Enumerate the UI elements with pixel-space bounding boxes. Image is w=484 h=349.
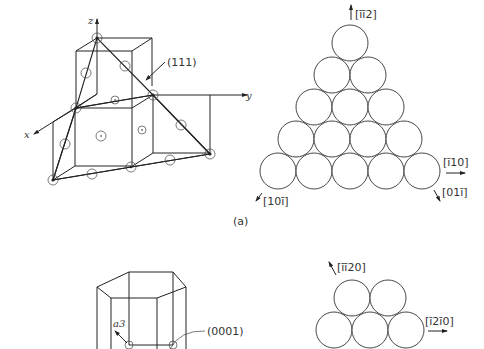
cube-top-face <box>76 38 152 51</box>
plane-0001-label: (0001) <box>207 325 244 338</box>
x-axis-label: x <box>24 129 30 140</box>
a3-axis-arrow <box>115 331 127 343</box>
direction-label-upper-left: [īī20] <box>337 261 366 274</box>
hcp-close-packed-plane: [īī20] [ī2ī0] <box>316 261 454 348</box>
direction-label-lower-left: [10ī] <box>263 195 289 208</box>
direction-label-lower-right: [01ī] <box>442 186 468 199</box>
y-axis-label: y <box>245 90 252 101</box>
fcc-unit-cell-diagram: z y x (111) <box>24 15 252 185</box>
direction-arrow-lower-left <box>256 193 262 201</box>
direction-label-right-hcp: [ī2ī0] <box>425 315 454 328</box>
direction-arrow-lower-right <box>434 190 440 201</box>
fcc-close-packed-plane: [īī2] [ī10] [10ī] [01ī] <box>256 5 469 208</box>
direction-arrow-upper-left <box>329 262 336 275</box>
part-a-caption: (a) <box>233 215 248 228</box>
a3-axis-label: a3 <box>113 318 125 329</box>
hcp-prism-diagram: a3 (0001) <box>97 272 244 349</box>
z-axis-label: z <box>87 15 94 26</box>
plane-111-label: (111) <box>167 56 197 69</box>
crystal-planes-figure: z y x (111) [īī2] [ī10] [10ī] [01ī] (a) … <box>0 0 484 349</box>
plane-111-leader <box>146 62 165 80</box>
direction-label-right: [ī10] <box>443 156 469 169</box>
plane-0001-leader <box>170 331 205 349</box>
direction-label-up: [īī2] <box>355 8 377 21</box>
